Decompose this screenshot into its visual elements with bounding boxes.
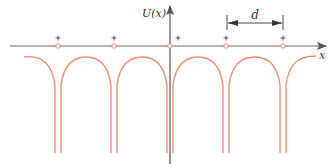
- ion-marker: [56, 44, 60, 48]
- plus-icon: [56, 36, 61, 41]
- spacing-label: d: [251, 8, 259, 22]
- plus-icon: [281, 36, 286, 41]
- ion-marker: [224, 44, 228, 48]
- ion-marker: [112, 44, 116, 48]
- periodic-potential-diagram: d U(x) x: [0, 0, 335, 166]
- ion-marker: [168, 44, 172, 48]
- plus-icon: [112, 36, 117, 41]
- y-axis-label: U(x): [142, 7, 166, 20]
- plus-icon: [224, 36, 229, 41]
- ion-marker: [281, 44, 285, 48]
- plus-icon: [176, 36, 181, 41]
- x-axis-label: x: [319, 49, 326, 62]
